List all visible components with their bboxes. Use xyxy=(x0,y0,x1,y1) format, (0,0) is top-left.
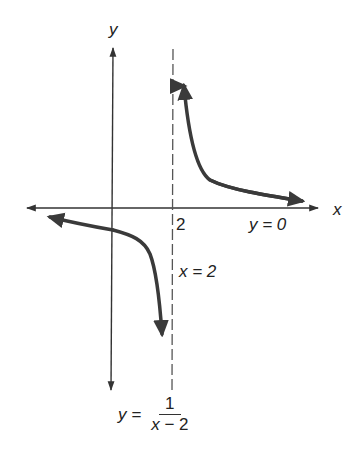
y-axis xyxy=(111,48,113,390)
vertical-asymptote-label: x = 2 xyxy=(179,263,216,280)
equation-numerator: 1 xyxy=(159,395,180,415)
vertical-asymptote-line xyxy=(172,49,173,390)
equation-lhs: y = xyxy=(118,405,141,425)
equation-denominator: x − 2 xyxy=(151,415,188,435)
x-axis-label: x xyxy=(333,201,342,218)
equation-denominator-var: x xyxy=(151,415,160,434)
equation-denominator-rest: − 2 xyxy=(160,415,189,434)
equation-fraction: 1 x − 2 xyxy=(151,395,188,435)
horizontal-asymptote-label: y = 0 xyxy=(249,216,286,233)
y-axis-label: y xyxy=(109,21,118,38)
curve-right-branch-arrow-end xyxy=(210,180,302,201)
curve-left-branch-lower xyxy=(113,230,162,334)
function-equation: y = 1 x − 2 xyxy=(118,395,189,435)
x-tick-label-2: 2 xyxy=(176,216,185,233)
curve-right-branch xyxy=(184,86,302,201)
curve-left-branch xyxy=(50,217,113,230)
